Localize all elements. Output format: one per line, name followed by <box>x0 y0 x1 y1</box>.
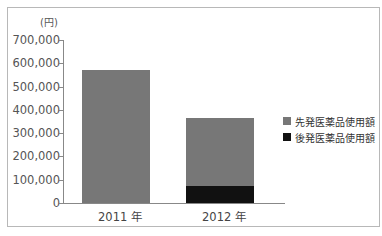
legend-item-brand: 先発医薬品使用額 <box>283 113 375 129</box>
x-label-2011: 2011 年 <box>80 208 160 224</box>
x-axis-line <box>63 203 285 204</box>
bar-segment <box>186 186 254 203</box>
legend: 先発医薬品使用額 後発医薬品使用額 <box>283 113 375 145</box>
legend-swatch-black <box>283 133 291 141</box>
y-tick-label: 300,000 <box>12 127 60 139</box>
x-label-2012: 2012 年 <box>184 208 264 224</box>
legend-label: 先発医薬品使用額 <box>295 114 375 129</box>
bar-segment <box>186 118 254 186</box>
y-axis-unit: (円) <box>40 14 58 29</box>
legend-swatch-gray <box>283 117 291 125</box>
y-tick-label: 700,000 <box>12 34 60 46</box>
bar-segment <box>82 70 150 203</box>
y-tick-label: 400,000 <box>12 104 60 116</box>
y-tick-label: 600,000 <box>12 57 60 69</box>
legend-label: 後発医薬品使用額 <box>295 130 375 145</box>
legend-item-generic: 後発医薬品使用額 <box>283 129 375 145</box>
y-tick-label: 100,000 <box>12 174 60 186</box>
y-tick-label: 500,000 <box>12 81 60 93</box>
y-tick-label: 200,000 <box>12 150 60 162</box>
y-axis-line <box>63 40 64 203</box>
